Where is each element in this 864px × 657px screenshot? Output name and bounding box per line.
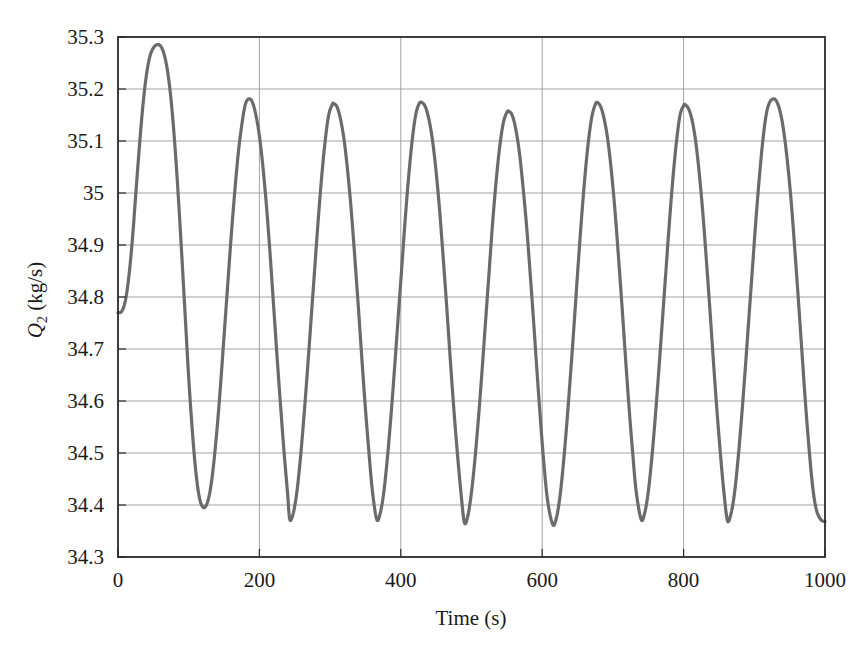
- chart-background: [0, 0, 864, 657]
- y-tick-label: 34.5: [67, 441, 104, 465]
- y-tick-label: 35: [83, 181, 104, 205]
- y-tick-label: 34.4: [67, 493, 104, 517]
- y-tick-label: 34.3: [67, 545, 104, 569]
- y-axis-subscript: 2: [35, 316, 50, 323]
- y-axis-units: (kg/s): [23, 262, 47, 316]
- figure-container: 34.334.434.534.634.734.834.93535.135.235…: [0, 0, 864, 657]
- x-tick-label: 800: [668, 568, 700, 592]
- x-axis-title: Time (s): [436, 606, 507, 630]
- y-tick-label: 35.2: [67, 77, 104, 101]
- y-tick-label: 35.1: [67, 129, 104, 153]
- y-axis-title: Q2 (kg/s): [23, 262, 50, 338]
- y-tick-label: 34.6: [67, 389, 104, 413]
- y-tick-label: 34.7: [67, 337, 104, 361]
- y-axis-title-text: Q2 (kg/s): [23, 262, 50, 338]
- x-tick-label: 400: [385, 568, 417, 592]
- x-tick-label: 600: [526, 568, 558, 592]
- x-tick-label: 200: [244, 568, 276, 592]
- y-tick-label: 34.9: [67, 233, 104, 257]
- y-axis-symbol: Q: [23, 323, 47, 338]
- x-axis-title-text: Time (s): [436, 606, 507, 630]
- y-tick-label: 35.3: [67, 25, 104, 49]
- y-tick-label: 34.8: [67, 285, 104, 309]
- x-tick-label: 0: [113, 568, 124, 592]
- line-chart: 34.334.434.534.634.734.834.93535.135.235…: [0, 0, 864, 657]
- x-tick-label: 1000: [804, 568, 846, 592]
